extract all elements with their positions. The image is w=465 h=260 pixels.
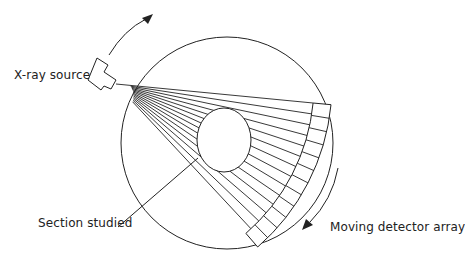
rotation-arrow-top-icon [109,14,153,55]
xray-source-icon [88,58,116,90]
xray-source-label: X-ray source [14,68,90,82]
detector-array-label: Moving detector array [330,220,465,234]
section-studied-ellipse [197,108,251,172]
section-studied-label: Section studied [38,216,132,230]
